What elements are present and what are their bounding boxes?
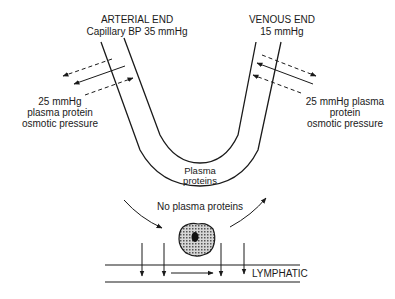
right-osmotic-line-3: osmotic pressure: [295, 118, 395, 129]
no-plasma-proteins-label: No plasma proteins: [145, 201, 255, 212]
cell-nucleus: [192, 232, 199, 242]
left-osmotic-line-3: osmotic pressure: [15, 118, 105, 129]
venous-inflow-dashed-arrow: [253, 75, 301, 93]
capillary-inner-wall: [124, 38, 256, 163]
left-osmotic-line-2: plasma protein: [15, 107, 105, 118]
capillary-diagram: [0, 0, 395, 299]
lymphatic-label: LYMPHATIC: [252, 268, 312, 279]
arterial-inflow-dashed-arrow: [85, 78, 133, 95]
venous-inflow-solid-arrow: [257, 63, 313, 84]
plasma-proteins-label-2: proteins: [170, 175, 230, 186]
arterial-end-title: ARTERIAL END: [82, 14, 192, 25]
arterial-outflow-solid-arrow: [74, 66, 125, 84]
venous-pressure: 15 mmHg: [232, 26, 332, 37]
right-osmotic-line-1: 25 mmHg plasma: [295, 96, 395, 107]
left-osmotic-line-1: 25 mmHg: [15, 96, 105, 107]
arterial-capillary-pressure: Capillary BP 35 mmHg: [62, 26, 212, 37]
right-osmotic-line-2: protein: [295, 107, 395, 118]
venous-outflow-dashed-arrow: [262, 55, 316, 76]
venous-end-title: VENOUS END: [232, 14, 332, 25]
